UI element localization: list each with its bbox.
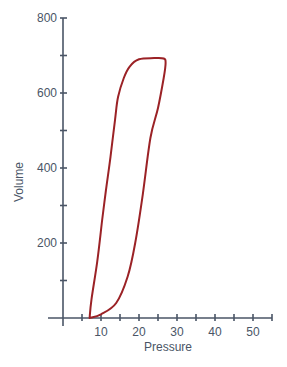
y-axis-title: Volume [12, 162, 26, 202]
tick-labels: 2004006008001020304050 [37, 11, 260, 339]
x-axis-title: Pressure [144, 340, 192, 354]
pressure-volume-loop [90, 58, 166, 318]
y-tick-label: 200 [37, 236, 57, 250]
y-tick-label: 600 [37, 86, 57, 100]
pressure-volume-chart: 2004006008001020304050 Pressure Volume [0, 0, 287, 367]
x-tick-label: 20 [132, 325, 146, 339]
y-tick-label: 400 [37, 161, 57, 175]
x-tick-label: 50 [246, 325, 260, 339]
y-tick-label: 800 [37, 11, 57, 25]
x-tick-label: 30 [170, 325, 184, 339]
axes [48, 18, 272, 326]
x-tick-label: 10 [94, 325, 108, 339]
x-tick-label: 40 [208, 325, 222, 339]
